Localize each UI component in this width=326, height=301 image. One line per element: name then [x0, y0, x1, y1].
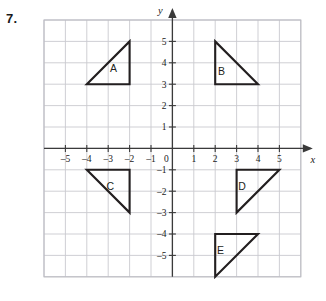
- y-tick-label: –1: [156, 165, 167, 175]
- triangle-label-c: C: [107, 180, 115, 192]
- y-tick-label: 3: [162, 80, 167, 90]
- y-tick-label: 1: [162, 122, 167, 132]
- axes: [44, 8, 313, 277]
- x-tick-label: 1: [191, 154, 196, 164]
- origin-label: 0: [164, 154, 169, 164]
- triangle-label-e: E: [217, 244, 224, 256]
- y-axis-arrow: [168, 8, 176, 18]
- y-tick-label: –5: [156, 251, 167, 261]
- x-tick-label: –2: [124, 154, 135, 164]
- x-tick-label: 2: [213, 154, 218, 164]
- triangle-shapes: ABCDE: [87, 41, 280, 276]
- x-axis-arrow: [303, 144, 313, 152]
- y-tick-label: –3: [156, 208, 167, 218]
- y-tick-label: 5: [162, 37, 167, 47]
- x-tick-label: 5: [277, 154, 282, 164]
- y-tick-label: –4: [156, 229, 167, 239]
- triangle-label-b: B: [218, 65, 225, 77]
- coordinate-plane-figure: –5–4–3–2–11234554321–1–2–3–4–50 xy ABCDE: [0, 0, 326, 301]
- x-tick-label: –5: [60, 154, 71, 164]
- triangle-label-a: A: [110, 62, 117, 74]
- x-tick-label: 3: [234, 154, 239, 164]
- y-tick-label: –2: [156, 187, 167, 197]
- x-axis-label: x: [309, 154, 315, 165]
- y-axis-label: y: [157, 5, 163, 16]
- triangle-label-d: D: [238, 180, 246, 192]
- x-tick-label: –1: [145, 154, 156, 164]
- y-tick-label: 4: [162, 58, 167, 68]
- coordinate-grid-svg: –5–4–3–2–11234554321–1–2–3–4–50 xy ABCDE: [0, 0, 326, 301]
- x-tick-label: 4: [256, 154, 261, 164]
- x-tick-label: –4: [81, 154, 92, 164]
- x-tick-label: –3: [102, 154, 113, 164]
- y-tick-label: 2: [162, 101, 167, 111]
